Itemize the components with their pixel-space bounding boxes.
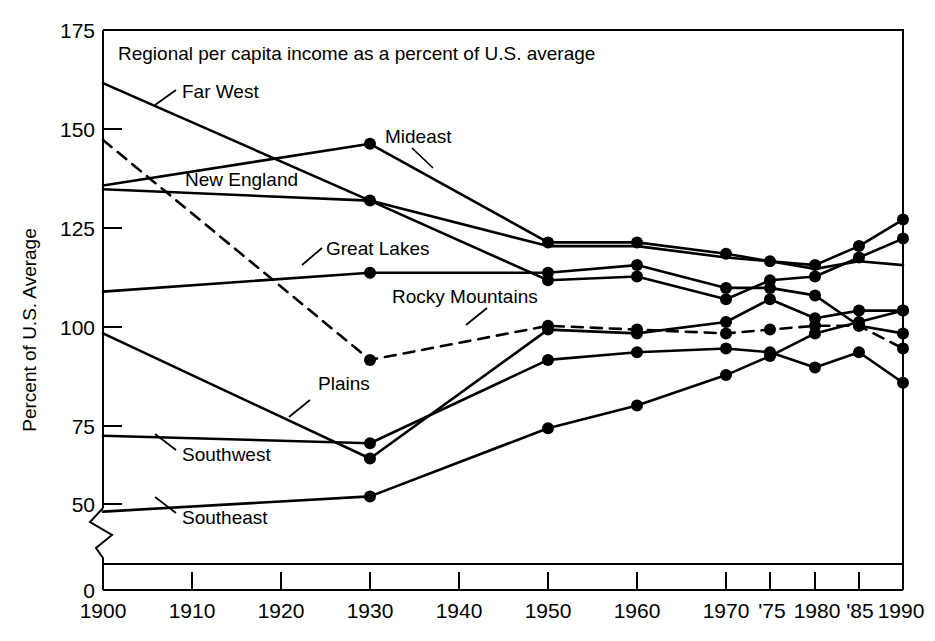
x-tick-label-1900: 1900 [80,599,127,622]
data-point [764,293,776,305]
data-point [853,346,865,358]
series-label-rocky-mountains: Rocky Mountains [392,286,538,307]
data-point [542,354,554,366]
y-tick-label-150: 150 [60,118,95,141]
data-point [364,138,376,150]
data-point [631,399,643,411]
series-path-southeast [103,311,903,512]
y-tick-label-125: 125 [60,217,95,240]
data-point [364,195,376,207]
x-tick-label-1970: 1970 [703,599,750,622]
data-point [720,293,732,305]
data-point [809,271,821,283]
x-tick-label-1920: 1920 [258,599,305,622]
data-point [364,437,376,449]
y-axis-title: Percent of U.S. Average [19,228,40,432]
y-axis-ticks [103,30,122,504]
series-labels: Far West Mideast New England Great Lakes… [182,81,538,528]
data-point [809,327,821,339]
series-label-southeast: Southeast [182,507,268,528]
y-tick-label-50: 50 [72,493,95,516]
series-path-plains [103,299,903,458]
data-point [364,453,376,465]
data-point [897,327,909,339]
data-point [364,267,376,279]
series-label-great-lakes: Great Lakes [326,238,430,259]
data-point [853,305,865,317]
leader-southeast [155,497,176,513]
income-line-chart: 175 150 125 100 75 50 0 Percent of U.S. … [0,0,935,641]
data-point [897,233,909,245]
series-label-southwest: Southwest [182,444,271,465]
series-label-plains: Plains [318,373,370,394]
chart-title: Regional per capita income as a percent … [118,43,595,64]
data-point [364,490,376,502]
y-tick-label-175: 175 [60,19,95,42]
x-tick-label-1950: 1950 [525,599,572,622]
data-point [631,346,643,358]
series-label-far-west: Far West [182,81,259,102]
data-point [542,236,554,248]
x-tick-label-1940: 1940 [436,599,483,622]
data-point [542,324,554,336]
y-axis-break-icon [90,508,112,590]
leader-far-west [155,90,176,105]
y-tick-label-75: 75 [72,415,95,438]
chart-container: 175 150 125 100 75 50 0 Percent of U.S. … [0,0,935,641]
data-point [764,350,776,362]
x-axis-ticks [103,572,903,590]
leader-mideast [412,148,433,168]
x-tick-label-1990: 1990 [878,599,925,622]
data-point [720,369,732,381]
data-point [853,252,865,264]
data-point [853,240,865,252]
data-point [720,316,732,328]
data-point [809,362,821,374]
data-point [897,377,909,389]
x-tick-label-1960: 1960 [614,599,661,622]
leader-plains [289,400,310,417]
data-point [720,327,732,339]
data-point [542,422,554,434]
data-point [631,259,643,271]
data-point [809,289,821,301]
data-point [897,214,909,226]
y-tick-label-100: 100 [60,316,95,339]
x-tick-label-1910: 1910 [169,599,216,622]
data-point [720,282,732,294]
data-point [631,327,643,339]
series-label-mideast: Mideast [385,126,452,147]
data-point [542,267,554,279]
data-point [764,324,776,336]
x-tick-label-1975: '75 [758,599,785,622]
x-tick-label-1985: '85 [846,599,873,622]
leader-rocky-mountains [466,308,487,325]
data-point [720,343,732,355]
leader-great-lakes [302,248,322,265]
data-point [853,316,865,328]
data-point [631,271,643,283]
data-point [364,354,376,366]
data-point [809,259,821,271]
data-point [809,312,821,324]
x-axis-tick-labels: 1900 1910 1920 1930 1940 1950 1960 1970 … [80,599,925,622]
y-axis-tick-labels: 175 150 125 100 75 50 0 [60,19,95,602]
data-point [631,236,643,248]
series-path-mideast [103,144,903,265]
series-label-new-england: New England [185,169,298,190]
data-point [764,282,776,294]
data-point [720,248,732,260]
data-point [897,305,909,317]
x-tick-label-1980: 1980 [794,599,841,622]
x-tick-label-1930: 1930 [347,599,394,622]
data-point [764,255,776,267]
data-point [897,343,909,355]
